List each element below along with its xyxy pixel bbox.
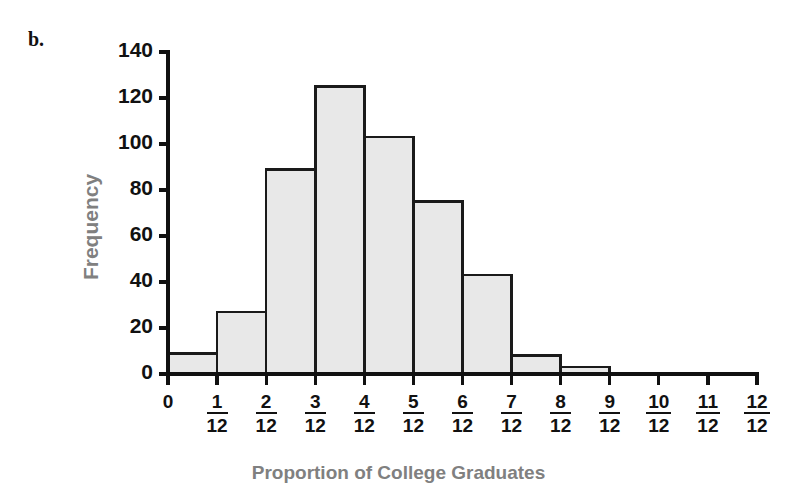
fraction-denominator: 12	[452, 414, 473, 435]
fraction-denominator: 12	[646, 414, 671, 435]
bars-group	[168, 87, 610, 375]
fraction-numerator: 9	[599, 392, 620, 414]
fraction-denominator: 12	[501, 414, 522, 435]
histogram-bar	[364, 137, 413, 374]
y-tick-label: 80	[130, 176, 153, 200]
x-tick-fraction: 1012	[646, 392, 671, 435]
fraction-numerator: 2	[256, 392, 277, 414]
y-tick-label: 60	[130, 222, 153, 246]
x-tick-label: 1212	[727, 392, 787, 435]
x-tick-fraction: 612	[452, 392, 473, 435]
fraction-denominator: 12	[744, 414, 769, 435]
y-tick-label: 40	[130, 268, 153, 292]
fraction-denominator: 12	[256, 414, 277, 435]
fraction-denominator: 12	[599, 414, 620, 435]
y-tick-label: 120	[118, 84, 153, 108]
histogram-figure: b. Frequency Proportion of College Gradu…	[0, 0, 797, 502]
fraction-denominator: 12	[403, 414, 424, 435]
x-tick-fraction: 912	[599, 392, 620, 435]
fraction-numerator: 11	[696, 392, 720, 414]
histogram-bar	[266, 169, 315, 374]
fraction-denominator: 12	[696, 414, 720, 435]
fraction-numerator: 7	[501, 392, 522, 414]
histogram-bar	[315, 87, 364, 375]
y-tick-label: 100	[118, 130, 153, 154]
x-tick-fraction: 412	[354, 392, 375, 435]
x-tick-fraction: 212	[256, 392, 277, 435]
fraction-numerator: 4	[354, 392, 375, 414]
x-tick-whole-number: 0	[163, 392, 174, 411]
histogram-bar	[168, 353, 217, 374]
fraction-numerator: 8	[550, 392, 571, 414]
x-tick-fraction: 312	[305, 392, 326, 435]
x-tick-fraction: 112	[207, 392, 228, 435]
histogram-bar	[463, 275, 512, 374]
fraction-numerator: 5	[403, 392, 424, 414]
fraction-denominator: 12	[305, 414, 326, 435]
x-tick-fraction: 1212	[744, 392, 769, 435]
histogram-bar	[217, 312, 266, 374]
plot-area: 0204060801001201400112212312412512612712…	[0, 0, 797, 502]
fraction-numerator: 3	[305, 392, 326, 414]
fraction-numerator: 10	[646, 392, 671, 414]
histogram-bar	[413, 202, 462, 375]
y-tick-label: 140	[118, 38, 153, 62]
histogram-bar	[512, 356, 561, 374]
x-ticks-group	[168, 374, 757, 385]
x-tick-fraction: 812	[550, 392, 571, 435]
y-tick-label: 0	[141, 360, 153, 384]
fraction-numerator: 12	[744, 392, 769, 414]
x-tick-fraction: 1112	[696, 392, 720, 435]
fraction-numerator: 1	[207, 392, 228, 414]
x-tick-fraction: 512	[403, 392, 424, 435]
y-tick-label: 20	[130, 314, 153, 338]
fraction-denominator: 12	[354, 414, 375, 435]
x-tick-fraction: 712	[501, 392, 522, 435]
fraction-numerator: 6	[452, 392, 473, 414]
fraction-denominator: 12	[207, 414, 228, 435]
fraction-denominator: 12	[550, 414, 571, 435]
